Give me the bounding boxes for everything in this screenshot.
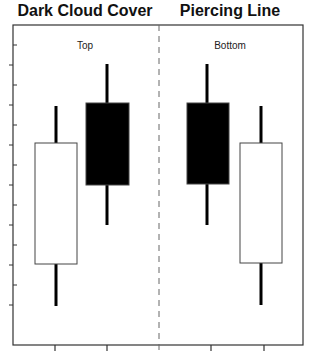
candlestick-black [86, 64, 129, 225]
candlestick-plot [0, 0, 314, 362]
candlestick-white [240, 106, 282, 305]
candlestick-white [35, 106, 77, 306]
candlestick-black [187, 64, 229, 225]
